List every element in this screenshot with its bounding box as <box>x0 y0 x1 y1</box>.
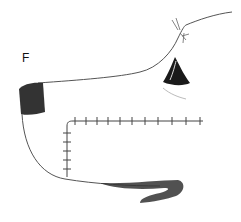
panel-label: F <box>22 51 29 65</box>
left-dark-block <box>19 83 45 115</box>
dark-triangle-shape <box>163 57 190 85</box>
flap-illustration <box>0 0 241 222</box>
left-curve-line <box>22 114 160 186</box>
bottom-curled-flap <box>100 180 183 203</box>
upper-contour-line <box>38 12 232 83</box>
faint-hatch-line <box>163 88 186 99</box>
suture-tuft-mark <box>172 18 189 43</box>
suture-line <box>63 117 203 177</box>
figure-canvas: F <box>0 0 241 222</box>
